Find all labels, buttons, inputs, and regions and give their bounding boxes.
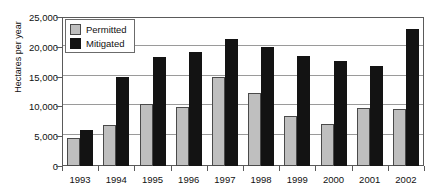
bar-permitted: [212, 77, 225, 166]
y-tick-label: 25,000: [0, 12, 58, 23]
bar-mitigated: [261, 47, 274, 166]
bar-mitigated: [297, 56, 310, 166]
bar-mitigated: [116, 77, 129, 166]
x-tick-mark: [424, 166, 425, 171]
bar-chart: Hectares per year 05,00010,00015,00020,0…: [0, 0, 432, 196]
x-tick-mark: [98, 166, 99, 171]
x-tick-mark: [243, 166, 244, 171]
bar-permitted: [67, 138, 80, 166]
bar-group: [393, 17, 419, 166]
legend-label: Mitigated: [86, 38, 125, 49]
bar-mitigated: [153, 57, 166, 166]
legend-swatch-mitigated: [70, 38, 81, 49]
x-tick-mark: [207, 166, 208, 171]
x-tick-label: 2002: [383, 174, 429, 185]
bar-permitted: [393, 109, 406, 166]
x-tick-mark: [352, 166, 353, 171]
bar-mitigated: [334, 61, 347, 166]
y-tick-label: 10,000: [0, 101, 58, 112]
x-tick-mark: [171, 166, 172, 171]
y-tick-label: 20,000: [0, 41, 58, 52]
bar-permitted: [321, 124, 334, 166]
y-tick-label: 15,000: [0, 71, 58, 82]
bar-permitted: [140, 104, 153, 166]
bar-permitted: [103, 125, 116, 166]
bar-permitted: [284, 116, 297, 166]
bar-permitted: [248, 93, 261, 166]
x-tick-mark: [315, 166, 316, 171]
x-tick-mark: [388, 166, 389, 171]
legend-item: Permitted: [70, 23, 127, 35]
legend-swatch-permitted: [70, 24, 81, 35]
bar-group: [357, 17, 383, 166]
y-tick-label: 5,000: [0, 131, 58, 142]
bar-group: [212, 17, 238, 166]
bar-mitigated: [370, 66, 383, 166]
bar-mitigated: [80, 130, 93, 166]
bar-group: [248, 17, 274, 166]
legend-label: Permitted: [86, 24, 127, 35]
bar-mitigated: [189, 52, 202, 166]
bar-permitted: [357, 108, 370, 166]
bar-group: [321, 17, 347, 166]
y-tick-label: 0: [0, 161, 58, 172]
x-tick-mark: [134, 166, 135, 171]
bar-mitigated: [406, 29, 419, 166]
legend: PermittedMitigated: [65, 19, 135, 53]
x-tick-mark: [279, 166, 280, 171]
bar-group: [176, 17, 202, 166]
x-tick-mark: [62, 166, 63, 171]
bar-mitigated: [225, 39, 238, 166]
bar-group: [140, 17, 166, 166]
legend-item: Mitigated: [70, 37, 127, 49]
bar-permitted: [176, 107, 189, 166]
bar-group: [284, 17, 310, 166]
